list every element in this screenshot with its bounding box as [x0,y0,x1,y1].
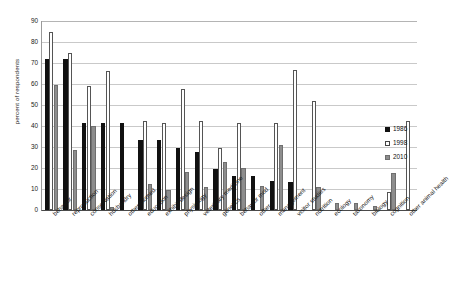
bar-group [117,21,136,210]
bar-1986 [63,59,67,210]
bar-group [136,21,155,210]
x-axis-tick-labels: behaviorreproductionconservationhusbandr… [41,212,416,290]
bar-group [248,21,267,210]
chart-legend: 198619982010 [385,124,407,166]
bar-1998 [68,53,72,211]
bar-group [323,21,342,210]
bar-2010 [73,150,77,210]
y-tick-90: 90 [20,18,38,24]
y-axis-title: percent of respondents [13,32,20,152]
bar-group [380,21,399,210]
bar-chart-figure: percent of respondents 01020304050607080… [0,0,463,290]
legend-item: 1998 [385,138,407,149]
bar-2010 [54,85,58,210]
y-tick-20: 20 [20,165,38,171]
y-tick-80: 80 [20,39,38,45]
bar-group [267,21,286,210]
y-tick-50: 50 [20,102,38,108]
y-tick-40: 40 [20,123,38,129]
legend-label: 1998 [393,140,407,146]
bar-1998 [274,123,278,210]
bar-group [155,21,174,210]
bar-group [192,21,211,210]
bar-1998 [293,70,297,210]
bar-group [61,21,80,210]
bar-1998 [49,32,53,211]
bar-group [80,21,99,210]
bar-group [42,21,61,210]
y-tick-30: 30 [20,144,38,150]
bar-group [361,21,380,210]
bar-group [286,21,305,210]
y-tick-70: 70 [20,60,38,66]
bar-group [305,21,324,210]
legend-label: 2010 [393,154,407,160]
legend-item: 1986 [385,124,407,135]
bar-group [211,21,230,210]
y-tick-10: 10 [20,186,38,192]
bar-group [98,21,117,210]
y-tick-0: 0 [20,207,38,213]
y-tick-60: 60 [20,81,38,87]
bar-group [173,21,192,210]
bar-group [398,21,417,210]
legend-swatch-icon [385,141,390,146]
bar-1986 [45,59,49,210]
legend-item: 2010 [385,152,407,163]
bar-group [342,21,361,210]
bar-2010 [279,145,283,210]
legend-swatch-icon [385,127,390,132]
legend-label: 1986 [393,126,407,132]
legend-swatch-icon [385,155,390,160]
